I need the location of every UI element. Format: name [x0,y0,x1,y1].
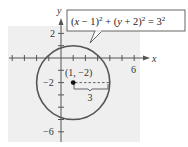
equation-label: (x − 1)2 + (y + 2)2 = 32 [71,15,166,28]
y-axis-arrow-icon [59,18,64,25]
x-tick-label-6: 6 [131,64,136,75]
x-axis-label: x [151,53,157,64]
center-label: (1, −2) [65,67,92,79]
y-axis-label: y [56,5,62,16]
y-tick-label-neg2: −2 [43,77,54,88]
radius-label: 3 [88,92,93,103]
center-point [71,80,76,85]
y-tick-label-2: 2 [50,28,55,39]
x-axis-arrow-icon [143,56,150,61]
y-tick-label-neg6: −6 [43,126,54,137]
circle-graph: x 6 y 2 −2 −6 3 (1, −2) (x − 1)2 + (y + … [0,0,188,147]
